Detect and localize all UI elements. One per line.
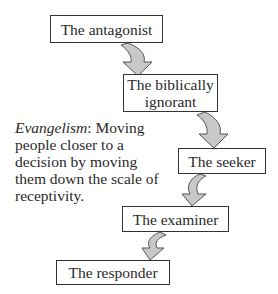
step-biblically-ignorant: The biblically ignorant <box>123 74 218 112</box>
step-label: The antagonist <box>61 21 153 38</box>
step-label-line2: ignorant <box>145 93 197 110</box>
arrow-icon <box>121 43 152 76</box>
step-examiner: The examiner <box>122 206 229 232</box>
step-label: The responder <box>68 264 157 281</box>
step-label: The examiner <box>133 211 219 228</box>
arrow-icon <box>197 112 228 148</box>
step-label-line1: The biblically <box>127 76 214 93</box>
arrow-icon <box>182 174 206 206</box>
arrow-icon <box>142 232 166 260</box>
step-antagonist: The antagonist <box>50 15 163 43</box>
caption-term: Evangelism <box>15 119 87 136</box>
step-responder: The responder <box>56 260 170 285</box>
step-label: The seeker <box>188 153 256 170</box>
evangelism-caption: Evangelism: Moving people closer to a de… <box>15 119 165 204</box>
step-seeker: The seeker <box>178 148 266 174</box>
